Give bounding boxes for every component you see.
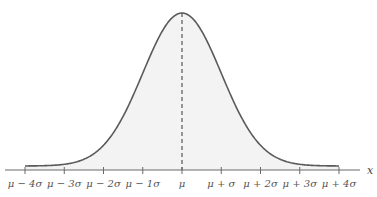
x-axis-label: x (367, 164, 374, 177)
normal-distribution-chart: μ − 4σμ − 3σμ − 2σμ − 1σμμ + σμ + 2σμ + … (0, 0, 377, 197)
x-tick-label: μ + 3σ (283, 178, 319, 189)
x-tick-label: μ + 2σ (243, 178, 279, 189)
x-tick-label: μ + 4σ (322, 178, 358, 189)
x-tick-label: μ − 3σ (47, 178, 83, 189)
x-tick-label: μ − 2σ (86, 178, 122, 189)
x-tick-label: μ (179, 178, 186, 189)
x-tick-label: μ − 4σ (8, 178, 44, 189)
x-tick-label: μ + σ (207, 178, 236, 189)
x-tick-label: μ − 1σ (126, 178, 162, 189)
x-axis-tick-labels: μ − 4σμ − 3σμ − 2σμ − 1σμμ + σμ + 2σμ + … (8, 178, 358, 189)
